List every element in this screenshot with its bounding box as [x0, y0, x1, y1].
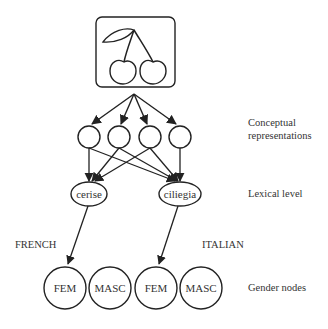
lexical-node-cerise: cerise [71, 182, 107, 206]
diagram-canvas: cerise ciliegia FEM MASC FEM MASC [0, 0, 328, 329]
concept-node [108, 126, 130, 148]
level-label-gender: Gender nodes [248, 281, 306, 294]
level-label-conceptual-line1: Conceptual [248, 116, 312, 129]
language-label-french: FRENCH [15, 238, 56, 251]
cherries-icon [96, 17, 175, 87]
gender-node-french-fem: FEM [44, 267, 86, 309]
svg-text:cerise: cerise [76, 188, 102, 200]
concept-node [139, 126, 161, 148]
gender-node-italian-fem: FEM [135, 267, 177, 309]
language-label-italian: ITALIAN [202, 238, 244, 251]
picture-to-concept-arrows [92, 94, 176, 124]
svg-text:ciliegia: ciliegia [164, 188, 196, 200]
gender-node-french-masc: MASC [89, 267, 131, 309]
concept-node [78, 126, 100, 148]
concept-node [169, 126, 191, 148]
gender-node-italian-masc: MASC [180, 267, 222, 309]
level-label-conceptual-line2: representations [248, 129, 312, 142]
level-label-conceptual: Conceptual representations [248, 116, 312, 142]
svg-text:FEM: FEM [145, 282, 168, 294]
svg-text:FEM: FEM [54, 282, 77, 294]
concept-nodes [78, 126, 191, 148]
svg-text:MASC: MASC [94, 282, 125, 294]
concept-to-lexical-arrows [89, 148, 180, 181]
svg-text:MASC: MASC [185, 282, 216, 294]
level-label-lexical: Lexical level [248, 187, 303, 200]
lexical-node-ciliegia: ciliegia [159, 182, 201, 206]
lexical-to-gender-arrows [68, 206, 178, 264]
